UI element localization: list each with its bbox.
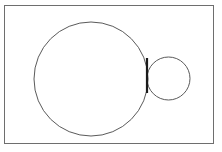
outer-rectangle-border — [5, 6, 214, 144]
diagram-canvas — [0, 0, 222, 152]
figure-root — [0, 0, 222, 152]
